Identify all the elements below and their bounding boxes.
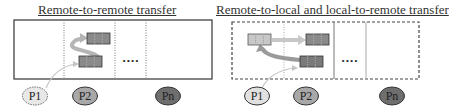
- process-label-pn-left: Pn: [156, 89, 180, 104]
- process-label-pn-right: Pn: [380, 89, 404, 104]
- panel-left-memory: [14, 20, 212, 79]
- process-label-p1-right: P1: [245, 89, 269, 104]
- data-block-local: [248, 34, 271, 45]
- process-label-p2-right: P2: [294, 89, 318, 104]
- data-block-remote-lower: [79, 56, 102, 67]
- ellipsis-right: ....: [336, 50, 364, 66]
- data-block-remote-upper-right: [306, 34, 329, 45]
- process-label-p1-left: P1: [23, 89, 47, 104]
- ellipsis-left: ....: [117, 50, 145, 66]
- data-block-remote-lower-right: [300, 56, 323, 67]
- process-label-p2-left: P2: [73, 89, 97, 104]
- data-block-remote-upper: [87, 33, 110, 44]
